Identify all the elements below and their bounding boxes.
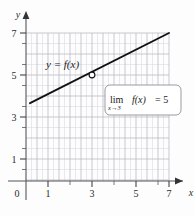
x-axis-name: x — [188, 187, 194, 198]
x-axis-ticks — [48, 181, 169, 187]
y-axis-name: y — [15, 9, 21, 20]
x-tick-label-5: 5 — [134, 188, 139, 199]
y-tick-label-5: 5 — [12, 70, 17, 81]
function-label: y = f(x) — [45, 58, 79, 71]
x-tick-label-3: 3 — [90, 188, 95, 199]
y-tick-label-3: 3 — [12, 112, 17, 123]
limit-subscript: x→3 — [107, 104, 121, 111]
x-tick-label-1: 1 — [46, 188, 51, 199]
x-axis-minor-ticks — [70, 181, 158, 185]
x-axis — [8, 178, 183, 185]
limit-callout: lim x→3 f(x) = 5 — [105, 85, 181, 115]
x-tick-label-7: 7 — [167, 188, 172, 199]
limit-graph-figure: 7 5 3 1 0 1 3 5 7 y x y = f(x) lim x→3 f… — [0, 0, 195, 216]
y-axis-major-ticks — [20, 33, 26, 159]
y-axis — [23, 11, 30, 200]
y-axis-minor-ticks — [22, 44, 26, 170]
y-tick-label-1: 1 — [12, 154, 17, 165]
origin-label: 0 — [15, 188, 20, 199]
open-circle-marker — [89, 72, 95, 78]
y-tick-label-7: 7 — [12, 28, 17, 39]
limit-equals: = 5 — [155, 94, 168, 105]
limit-expression: f(x) — [132, 94, 147, 106]
